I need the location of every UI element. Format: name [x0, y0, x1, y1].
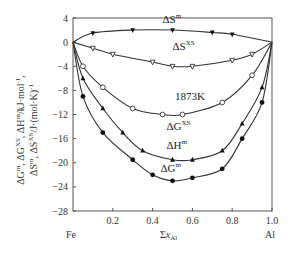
y-tick-label: 0	[63, 37, 68, 48]
x-tick-label: 0.6	[186, 215, 199, 226]
data-point-marker	[190, 175, 195, 180]
temperature-annotation: 1873K	[175, 90, 205, 102]
series-label: ΔSXS	[173, 39, 195, 52]
svg-text:ΔGm, ΔGXS, ΔHm/kJ·mol-1,: ΔGm, ΔGXS, ΔHm/kJ·mol-1,	[14, 75, 26, 185]
x-axis-title: ΣxAl	[160, 229, 177, 242]
data-point-marker	[81, 64, 86, 69]
x-tick-label: 0.8	[226, 215, 239, 226]
series-line	[73, 42, 272, 116]
y-tick-label: −28	[52, 206, 68, 217]
y-tick-label: −16	[52, 133, 68, 144]
data-point-marker	[260, 100, 265, 105]
y-tick-label: −20	[52, 157, 68, 168]
data-point-marker	[240, 136, 245, 141]
y-axis-title: ΔGm, ΔGXS, ΔHm/kJ·mol-1, ΔSm, ΔSXS/J·(mo…	[14, 75, 40, 185]
y-tick-label: −24	[52, 181, 68, 192]
data-point-marker	[150, 60, 155, 65]
x-tick-label: 0.4	[146, 215, 159, 226]
y-tick-label: −12	[52, 109, 68, 120]
data-point-marker	[130, 157, 135, 162]
data-point-marker	[260, 84, 265, 89]
series-label: ΔHm	[167, 138, 188, 151]
series-label: ΔSm	[163, 12, 182, 25]
data-point-marker	[170, 178, 175, 183]
x-tick-label: 1.0	[266, 215, 279, 226]
chart-figure: 40−4−8−12−16−20−24−28 0.20.40.60.81.0 ΔS…	[0, 0, 289, 254]
data-point-marker	[81, 75, 86, 80]
x-axis-left-label: Fe	[66, 229, 77, 240]
data-point-marker	[150, 172, 155, 177]
y-tick-label: −8	[57, 85, 68, 96]
data-point-marker	[91, 46, 96, 51]
y-axis-ticks: 40−4−8−12−16−20−24−28	[52, 13, 76, 217]
y-tick-label: −4	[57, 61, 68, 72]
x-axis-right-label: Al	[265, 229, 275, 240]
x-tick-label: 0.2	[107, 215, 120, 226]
data-point-marker	[110, 52, 115, 57]
data-point-marker	[250, 73, 255, 78]
data-point-marker	[220, 100, 225, 105]
data-point-marker	[130, 106, 135, 111]
series-label: ΔGXS	[167, 119, 191, 132]
y-tick-label: 4	[63, 13, 68, 24]
data-point-marker	[100, 85, 105, 90]
data-point-marker	[230, 58, 235, 63]
data-point-marker	[250, 52, 255, 57]
data-point-marker	[160, 112, 165, 117]
data-point-marker	[170, 64, 175, 69]
data-point-marker	[180, 112, 185, 117]
data-point-marker	[81, 94, 86, 99]
series-label: ΔGm	[161, 161, 182, 174]
data-point-marker	[100, 130, 105, 135]
svg-text:ΔSm, ΔSXS/J·(mol·K)-1: ΔSm, ΔSXS/J·(mol·K)-1	[27, 83, 40, 176]
data-point-marker	[220, 166, 225, 171]
data-point-marker	[220, 148, 225, 153]
data-point-marker	[190, 64, 195, 69]
